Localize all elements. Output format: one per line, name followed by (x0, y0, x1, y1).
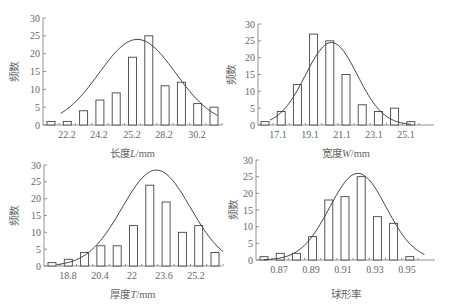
y-tick-label: 5 (35, 102, 40, 113)
histogram-bar (373, 217, 381, 260)
histogram-bar (47, 121, 55, 125)
histogram-bar (162, 202, 170, 266)
histogram-bar (146, 185, 154, 266)
histogram-bar (194, 104, 202, 125)
y-tick-label: 20 (31, 193, 41, 204)
histogram-bar (276, 253, 284, 260)
y-tick-label: 10 (243, 221, 253, 232)
histogram-bar (145, 36, 153, 125)
x-label-name: 球形率 (331, 288, 361, 300)
y-tick-label: 10 (30, 84, 40, 95)
histogram-bar (97, 246, 105, 266)
histogram-bar (130, 226, 138, 266)
x-axis-label: 长度L/mm (110, 147, 155, 159)
y-tick-label: 25 (243, 171, 253, 182)
y-axis-label: 频数 (227, 199, 239, 220)
x-tick-label: 28.2 (155, 129, 173, 140)
normal-fit-curve (270, 43, 411, 125)
x-label-name: 宽度 (322, 147, 343, 159)
histogram-bar (292, 253, 300, 260)
x-label-unit: /mm (136, 148, 155, 159)
x-tick-label: 20.4 (91, 270, 109, 281)
histogram-bar (374, 112, 382, 125)
y-tick-label: 20 (245, 52, 255, 63)
y-tick-label: 10 (31, 227, 41, 238)
y-tick-label: 15 (243, 205, 253, 216)
y-tick-label: 30 (243, 155, 253, 166)
x-tick-label: 30.2 (188, 129, 206, 140)
histogram-bar (358, 105, 366, 125)
length-histogram-panel: 05101520253022.224.225.228.230.2频数长度L/mm (8, 13, 222, 160)
histogram-bar (178, 232, 186, 266)
y-tick-label: 25 (245, 35, 255, 46)
histogram-bar (113, 246, 121, 266)
histogram-bar (63, 121, 71, 125)
y-tick-label: 0 (248, 255, 253, 266)
y-tick-label: 5 (250, 103, 255, 114)
y-axis-label: 频数 (225, 64, 237, 85)
y-tick-label: 25 (30, 30, 40, 41)
x-tick-label: 0.95 (398, 264, 416, 275)
histogram-bar (407, 122, 415, 125)
x-tick-label: 0.87 (270, 264, 288, 275)
x-axis-label: 球形率 (331, 288, 361, 300)
x-axis-label: 厚度T/mm (110, 288, 155, 300)
histogram-bar (390, 223, 398, 260)
y-tick-label: 15 (245, 69, 255, 80)
y-axis-label: 频数 (8, 205, 20, 226)
x-axis-label: 宽度W/mm (322, 147, 370, 159)
y-tick-label: 5 (248, 238, 253, 249)
x-tick-label: 19.1 (301, 129, 319, 140)
x-tick-label: 22 (127, 270, 137, 281)
x-label-unit: /mm (136, 289, 155, 300)
x-tick-label: 0.91 (334, 264, 352, 275)
x-tick-label: 18.8 (59, 270, 77, 281)
x-tick-label: 17.1 (269, 129, 287, 140)
histogram-bar (391, 108, 399, 125)
y-tick-label: 30 (30, 13, 40, 24)
histogram-bar (261, 122, 269, 125)
x-tick-label: 0.89 (302, 264, 320, 275)
y-tick-label: 10 (245, 86, 255, 97)
x-tick-label: 25.2 (187, 270, 205, 281)
histogram-bar (195, 226, 203, 266)
y-tick-label: 5 (36, 244, 41, 255)
x-tick-label: 25.1 (397, 129, 415, 140)
y-tick-label: 0 (250, 120, 255, 131)
x-label-name: 长度 (110, 147, 131, 159)
histogram-bar (96, 100, 104, 125)
histogram-bar (80, 111, 88, 125)
histogram-bar (342, 75, 350, 126)
histogram-bar (81, 253, 89, 266)
y-axis-label: 频数 (8, 61, 20, 82)
histogram-bar (112, 93, 120, 125)
y-tick-label: 20 (30, 48, 40, 59)
x-tick-label: 21.1 (333, 129, 351, 140)
x-label-name: 厚度 (110, 288, 131, 300)
histogram-bar (406, 257, 414, 260)
histogram-grid: 05101520253022.224.225.228.230.2频数长度L/mm… (0, 0, 449, 307)
width-histogram-panel: 05101520253017.119.121.123.125.1频数宽度W/mm (225, 19, 434, 160)
histogram-bar (161, 86, 169, 125)
y-tick-label: 25 (31, 176, 41, 187)
y-tick-label: 30 (31, 160, 41, 171)
x-label-unit: /mm (351, 148, 370, 159)
histogram-bar (48, 263, 56, 266)
histogram-bar (310, 34, 318, 125)
x-tick-label: 22.2 (58, 129, 76, 140)
y-tick-label: 0 (36, 261, 41, 272)
y-tick-label: 20 (243, 188, 253, 199)
y-tick-label: 0 (35, 120, 40, 131)
histogram-bar (129, 57, 137, 125)
histogram-bar (357, 177, 365, 260)
x-tick-label: 24.2 (90, 129, 108, 140)
histogram-bar (210, 107, 218, 125)
x-tick-label: 23.6 (155, 270, 173, 281)
y-tick-label: 30 (245, 19, 255, 30)
x-tick-label: 25.2 (123, 129, 141, 140)
histogram-bar (326, 41, 334, 125)
y-tick-label: 15 (30, 66, 40, 77)
histogram-bar (211, 253, 219, 266)
x-tick-label: 23.1 (365, 129, 383, 140)
histogram-bar (277, 112, 285, 125)
